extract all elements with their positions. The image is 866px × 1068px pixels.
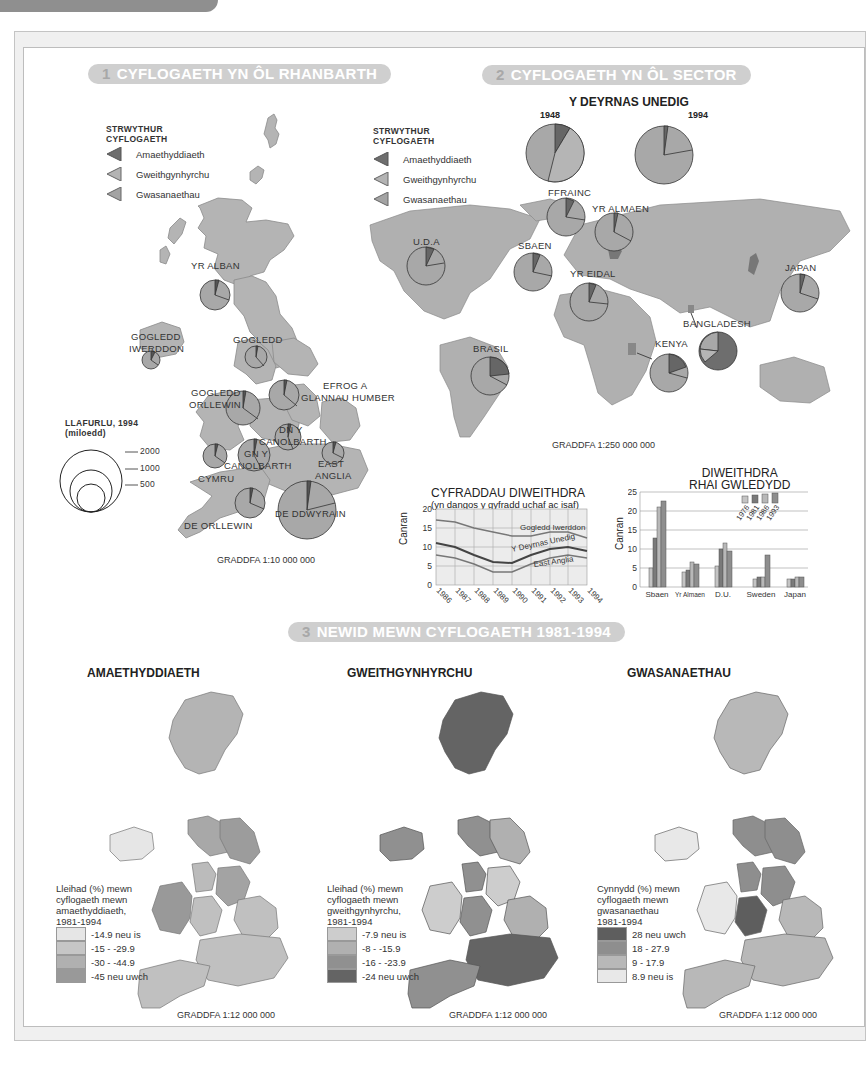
- svg-text:Japan: Japan: [784, 590, 806, 599]
- orkney-shape: [250, 166, 264, 184]
- legend-title-line: Cynnydd (%) mewn: [597, 883, 686, 894]
- svg-text:0: 0: [427, 580, 432, 590]
- swatch: [327, 969, 357, 983]
- map-scale-amaethyddiaeth: GRADDFA 1:12 000 000: [177, 1010, 275, 1020]
- north-america-shape: [370, 205, 540, 319]
- section-number: 2: [496, 66, 505, 83]
- svg-text:15: 15: [628, 525, 637, 535]
- svg-text:1989: 1989: [492, 586, 511, 605]
- wedge-medium-icon: [373, 172, 389, 186]
- svg-text:Yr Almaen: Yr Almaen: [675, 591, 705, 598]
- swatch: [327, 955, 357, 969]
- swatch: [56, 955, 86, 969]
- swatch: [56, 941, 86, 955]
- legend-title-line: cyflogaeth mewn: [597, 894, 686, 905]
- section-1-title: 1CYFLOGAETH YN ÔL RHANBARTH: [88, 64, 391, 84]
- legend-class-row: -30 - -44.9: [56, 955, 148, 969]
- svg-text:25: 25: [628, 488, 637, 497]
- bar-chart-ylabel: Canran: [614, 517, 625, 550]
- svg-text:10: 10: [423, 542, 433, 552]
- legend-title-line: gwasanaethau: [597, 905, 686, 916]
- section-2-scale: GRADDFA 1:250 000 000: [552, 440, 655, 450]
- country-label-sbaen: SBAEN: [518, 240, 552, 251]
- svg-text:20: 20: [628, 506, 637, 516]
- legend-title-line: 1981-1994: [597, 916, 686, 927]
- bar-chart: 2520151050 1976 1981 1986 1993 SbaenYr A…: [628, 488, 818, 600]
- legend-amaethyddiaeth: Lleihad (%) mewn cyflogaeth mewn amaethy…: [56, 883, 148, 983]
- legend-class-row: -45 neu uwch: [56, 969, 148, 983]
- section-title-text: NEWID MEWN CYFLOGAETH 1981-1994: [317, 623, 611, 640]
- swatch: [56, 969, 86, 983]
- page-top-tab: [0, 0, 218, 12]
- svg-text:10: 10: [628, 544, 637, 554]
- class-label: -24 neu uwch: [362, 971, 419, 982]
- legend-title-line: 1981-1994: [327, 916, 419, 927]
- region-label-gogledd-orllewin: GOGLEDD: [191, 387, 241, 398]
- legend-class-row: 18 - 27.9: [597, 941, 686, 955]
- swatch: [597, 941, 627, 955]
- region-label-dn-canolbarth: CANOLBARTH: [259, 436, 327, 447]
- region-label-de-ddwyrain: DE DDWYRAIN: [275, 508, 346, 519]
- legend-gwasanaethau: Cynnydd (%) mewn cyflogaeth mewn gwasana…: [597, 883, 686, 983]
- legend2-item-amaethyddiaeth: Amaethyddiaeth: [373, 152, 472, 166]
- scotland-shape: [198, 198, 294, 286]
- country-label-bangladesh: BANGLADESH: [683, 318, 751, 329]
- class-label: 18 - 27.9: [632, 943, 670, 954]
- legend-title-line: cyflogaeth mewn: [56, 894, 148, 905]
- svg-text:1993: 1993: [567, 586, 586, 605]
- size-legend-500: 500: [140, 479, 155, 489]
- class-label: -45 neu uwch: [91, 971, 148, 982]
- uk-pies: [520, 118, 720, 188]
- africa-shape: [554, 289, 656, 405]
- region-label-anglia: ANGLIA: [315, 470, 352, 481]
- svg-text:1987: 1987: [454, 586, 473, 605]
- legend-class-row: -8 - -15.9: [327, 941, 419, 955]
- legend2-item-gweithgynhyrchu: Gweithgynhyrchu: [373, 172, 476, 186]
- legend-class-row: 28 neu uwch: [597, 927, 686, 941]
- legend-title-line: gweithgynhyrchu,: [327, 905, 419, 916]
- svg-text:Sbaen: Sbaen: [645, 590, 668, 599]
- size-legend-title-line: (miloedd): [65, 428, 138, 438]
- section-title-text: CYFLOGAETH YN ÔL RHANBARTH: [117, 65, 378, 82]
- class-label: -15 - -29.9: [91, 943, 135, 954]
- svg-text:5: 5: [632, 563, 637, 573]
- svg-text:D.U.: D.U.: [715, 590, 731, 599]
- shetland-shape: [264, 114, 279, 148]
- legend-title-line: Lleihad (%) mewn: [56, 883, 148, 894]
- svg-text:1986: 1986: [435, 586, 454, 605]
- section-number: 1: [102, 65, 111, 82]
- section-2-title: 2CYFLOGAETH YN ÔL SECTOR: [482, 65, 751, 85]
- region-label-yr-alban: YR ALBAN: [191, 260, 240, 271]
- legend-title-line: 1981-1994: [56, 916, 148, 927]
- country-label-japan: JAPAN: [785, 262, 816, 273]
- swatch: [327, 927, 357, 941]
- section-2-legend-title: STRWYTHUR CYFLOGAETH: [373, 126, 435, 146]
- country-label-brasil: BRASIL: [473, 343, 509, 354]
- region-label-iwerddon: IWERDDON: [129, 343, 184, 354]
- size-legend-title: LLAFURLU, 1994 (miloedd): [65, 418, 138, 438]
- region-label-gogledd-iwerddon: GOGLEDD: [131, 331, 181, 342]
- legend-class-row: -15 - -29.9: [56, 941, 148, 955]
- section-3-title: 3NEWID MEWN CYFLOGAETH 1981-1994: [288, 622, 625, 642]
- region-label-de-orllewin: DE ORLLEWIN: [184, 520, 253, 531]
- legend-class-row: 8.9 neu is: [597, 969, 686, 983]
- country-label-eidal: YR EIDAL: [570, 268, 616, 279]
- region-label-orllewin: ORLLEWIN: [189, 399, 241, 410]
- region-label-gogledd: GOGLEDD: [233, 334, 283, 345]
- svg-text:0: 0: [632, 582, 637, 592]
- class-label: -14.9 neu is: [91, 929, 141, 940]
- legend-title-line: cyflogaeth mewn: [327, 894, 419, 905]
- svg-text:20: 20: [423, 505, 433, 514]
- country-label-uda: U.D.A: [413, 236, 440, 247]
- svg-text:1994: 1994: [586, 586, 605, 605]
- region-label-cymru: CYMRU: [198, 473, 234, 484]
- wedge-dark-icon: [373, 152, 389, 166]
- swatch: [597, 969, 627, 983]
- svg-text:1992: 1992: [549, 586, 568, 605]
- uk-pies-title: Y DEYRNAS UNEDIG: [569, 95, 689, 109]
- svg-text:1988: 1988: [473, 586, 492, 605]
- line-chart-title: CYFRADDAU DIWEITHDRA: [431, 486, 585, 500]
- section-1-scale: GRADDFA 1:10 000 000: [217, 555, 315, 565]
- legend-class-row: -14.9 neu is: [56, 927, 148, 941]
- section-title-text: CYFLOGAETH YN ÔL SECTOR: [511, 66, 737, 83]
